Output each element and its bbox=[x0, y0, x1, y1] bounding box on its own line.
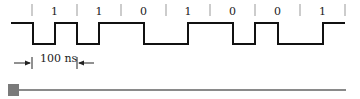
bit-label: 0 bbox=[140, 5, 147, 18]
left-arrow-head-icon bbox=[25, 61, 31, 66]
bit-labels: 1101001 bbox=[51, 5, 326, 18]
bit-label: 1 bbox=[319, 5, 326, 18]
right-arrow-head-icon bbox=[78, 61, 84, 66]
slider-thumb[interactable] bbox=[8, 84, 19, 96]
signal-waveform bbox=[11, 23, 345, 44]
bit-label: 1 bbox=[51, 5, 58, 18]
timeline-slider[interactable] bbox=[8, 84, 346, 97]
timing-diagram: 1101001 100 ns bbox=[0, 0, 360, 80]
slider-track[interactable] bbox=[8, 89, 346, 91]
bit-period-annotation: 100 ns bbox=[14, 52, 94, 69]
bit-label: 0 bbox=[274, 5, 281, 18]
bit-period-label: 100 ns bbox=[40, 52, 78, 65]
bit-label: 0 bbox=[229, 5, 236, 18]
bit-label: 1 bbox=[96, 5, 103, 18]
bit-label: 1 bbox=[185, 5, 192, 18]
